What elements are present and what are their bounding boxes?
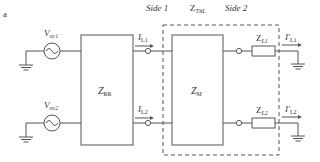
il2-prime-label: I'L2 [284,104,297,115]
ac-source-icon [44,43,60,59]
arrow-right-icon [135,44,154,48]
side2-label: Side 2 [225,3,248,13]
il2-label: IL2 [137,104,148,115]
row-2: Voc2 IL2 ZL2 I'L2 [19,100,305,142]
zm-block [172,35,223,145]
zl1-label: ZL1 [256,33,268,44]
terminal-icon [145,48,150,53]
voc2-label: Voc2 [44,100,58,111]
terminal-icon [145,120,150,125]
arrow-right-icon [282,115,302,119]
il1-label: IL1 [137,32,148,43]
zl1-resistor-icon [252,46,275,56]
il1-prime-label: I'L1 [284,32,297,43]
ground-icon [19,65,33,70]
side1-label: Side 1 [146,3,168,13]
figure-label: a [3,9,7,19]
zrr-block [81,35,133,145]
zl2-label: ZL2 [256,105,268,116]
circuit-diagram: a Side 1 ZThL Side 2 ZRR ZM Voc1 [0,0,320,162]
ac-source-icon [44,115,60,131]
zthl-label: ZThL [190,3,206,14]
ground-icon [291,64,305,69]
row-1: Voc1 IL1 ZL1 I'L1 [19,28,305,70]
arrow-right-icon [135,116,154,120]
ground-icon [19,137,33,142]
voc1-label: Voc1 [44,28,58,39]
ground-icon [291,136,305,141]
zl2-resistor-icon [252,118,275,128]
arrow-right-icon [282,43,302,47]
terminal-icon [236,48,241,53]
terminal-icon [236,120,241,125]
